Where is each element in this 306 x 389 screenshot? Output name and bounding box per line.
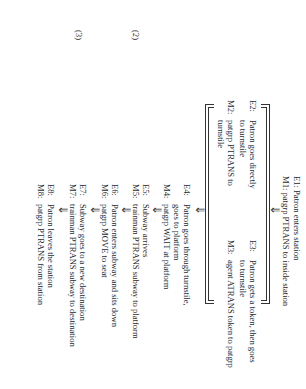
m3-text: M3:agent ATRANS token to patgrp: [226, 240, 236, 368]
equation-number: (3): [74, 30, 84, 40]
e5-text: E5:Subway arrives: [141, 184, 151, 257]
e4-text-cont: goes to platform: [172, 204, 182, 260]
m2-text-cont: turnstile: [216, 120, 226, 148]
e3-text: E3:Patron gets a token, then goes: [248, 240, 258, 363]
branch-bracket-bottom-inner: [208, 107, 214, 301]
equation-number: (2): [131, 30, 141, 40]
down-arrow-icon: ⇓: [151, 205, 163, 215]
down-arrow-icon: ⇓: [194, 205, 206, 215]
e2-text-cont: to turnstile: [238, 120, 248, 157]
m2-text: M2:patgrp PTRANS to: [226, 100, 236, 186]
m1-text: M1: patgrp PTRANS to inside station: [281, 176, 291, 306]
m4-text: M4:patgrp WAIT at platform: [162, 184, 172, 289]
e1-text: E1: Patron enters station: [292, 176, 302, 260]
e8-text: E8:Patron leaves the station: [46, 184, 56, 288]
e7-text: E7:Subway goes to a new destination: [78, 184, 88, 321]
down-arrow-icon: ⇓: [120, 205, 132, 215]
e6-text: E6:Patron enters subway and sits down: [110, 184, 120, 327]
m8-text: M8:patgrp PTRANS from station: [36, 184, 46, 305]
down-arrow-icon: ⇓: [269, 205, 281, 215]
e2-text: E2:Patron goes directly: [248, 100, 258, 189]
down-arrow-icon: ⇓: [89, 205, 101, 215]
down-arrow-icon: ⇓: [57, 205, 69, 215]
script-diagram: E1: Patron enters station M1: patgrp PTR…: [0, 0, 306, 389]
branch-bracket-top-inner: [261, 107, 267, 301]
e3-text-cont: to turnstile: [238, 260, 248, 297]
e4-text: E4:Patron goes through turnstile,: [182, 184, 192, 306]
m6-text: M6:patgrp MOVE to seat: [100, 184, 110, 278]
